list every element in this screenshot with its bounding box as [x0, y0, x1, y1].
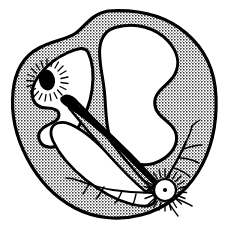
heart-conduction-system-diagram: [0, 0, 230, 232]
figure-container: Cardiac conduction system — heart cross-…: [0, 0, 230, 232]
